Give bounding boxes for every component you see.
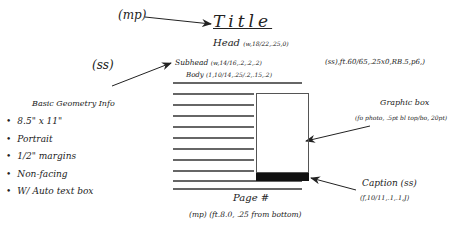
title-marker: (mp) [118,8,146,22]
subhead-marker: (ss) [92,58,114,72]
graphic-box-label: Graphic box [380,98,429,107]
text-frame-spec: (ss),ft.60/65,.25x0,RB.5,p6,) [325,58,425,66]
list-item: 8.5" x 11" [6,113,93,131]
graphic-box [257,94,309,173]
head-spec: (w,18/22,.25,0) [243,40,288,47]
page-title: Title [213,11,272,31]
list-item: 1/2" margins [6,148,93,166]
list-item: W/ Auto text box [6,183,93,201]
body-text-lines [173,94,254,171]
graphic-box-arrow [306,126,370,141]
head-label: Head (w,18/22,.25,0) [213,37,289,48]
caption-arrow [311,178,356,190]
caption-label: Caption (ss) [362,178,417,188]
graphic-box-spec: (fo photo, .5pt bl top/bo, 20pt) [355,114,447,121]
subhead-arrow [112,63,171,86]
geometry-title: Basic Geometry Info [32,99,115,108]
title-arrow [145,17,211,24]
geometry-list: 8.5" x 11" Portrait 1/2" margins Non-fac… [6,113,93,201]
list-item: Non-facing [6,166,93,184]
page-number-label: Page # [233,192,269,203]
caption-spec: (f,10/11,.1,.1,J) [360,194,409,202]
body-label: Body (1,10/14,.25/.2,.15,.2) [186,71,272,79]
list-item: Portrait [6,131,93,149]
subhead-label: Subhead (w,14/16,.2,.2,.2) [175,58,262,67]
body-spec: (1,10/14,.25/.2,.15,.2) [206,71,272,78]
subhead-spec: (w,14/16,.2,.2,.2) [211,59,262,66]
caption-bar [256,173,309,181]
page-number-spec: (mp) (ft.8.0, .25 from bottom) [189,210,302,219]
